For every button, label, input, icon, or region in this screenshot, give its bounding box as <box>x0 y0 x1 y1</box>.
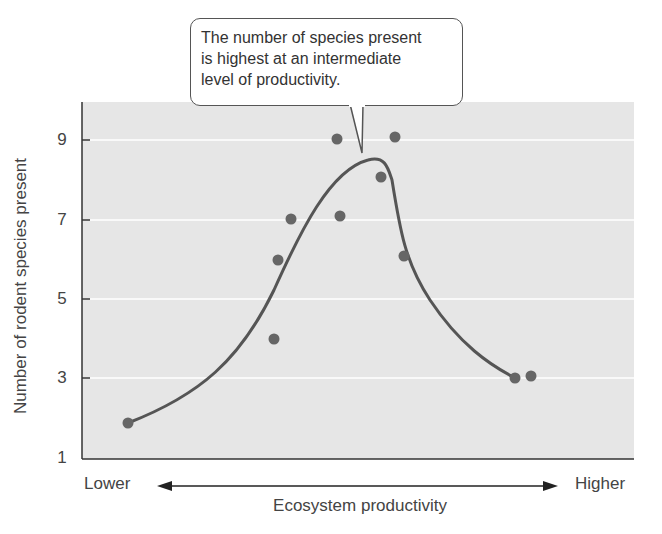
data-point <box>286 214 297 225</box>
data-point <box>390 132 401 143</box>
callout-line: level of productivity. <box>201 69 452 90</box>
x-high-label: Higher <box>575 474 625 494</box>
x-low-label: Lower <box>84 474 130 494</box>
data-point <box>526 371 537 382</box>
callout-line: The number of species present <box>201 27 452 48</box>
data-point <box>123 418 134 429</box>
y-tick-9: 9 <box>52 130 72 150</box>
data-point <box>332 134 343 145</box>
annotation-callout: The number of species present is highest… <box>190 18 463 106</box>
callout-line: is highest at an intermediate <box>201 48 452 69</box>
productivity-arrow <box>157 481 558 491</box>
y-tick-3: 3 <box>52 368 72 388</box>
y-axis-label: Number of rodent species present <box>11 141 31 431</box>
data-point <box>273 255 284 266</box>
data-point <box>376 172 387 183</box>
y-tick-5: 5 <box>52 289 72 309</box>
y-tick-1: 1 <box>52 448 72 468</box>
data-point <box>399 251 410 262</box>
data-point <box>269 334 280 345</box>
y-tick-7: 7 <box>52 210 72 230</box>
x-axis-label: Ecosystem productivity <box>230 496 490 516</box>
data-point <box>335 211 346 222</box>
data-point <box>510 373 521 384</box>
